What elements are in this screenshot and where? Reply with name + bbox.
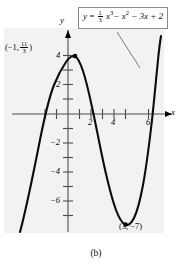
figure-caption: (b) [0, 248, 192, 258]
equation-lhs: y [83, 11, 87, 21]
y-axis-arrowhead [65, 30, 71, 38]
local-minimum-label: (3, −7) [119, 221, 142, 231]
max-fraction-denominator: 3 [20, 48, 28, 55]
y-tick-label-4: 4 [56, 50, 60, 60]
local-maximum-label: (−1,113) [5, 41, 32, 56]
equation-coefficient-fraction: 1 3 [98, 10, 103, 25]
y-tick-label-2: 2 [56, 79, 60, 89]
max-label-open: (−1, [5, 42, 19, 52]
max-label-fraction: 113 [20, 41, 28, 56]
y-tick-label--6: −6 [50, 195, 60, 205]
equation-equals: = [89, 11, 94, 21]
max-point-marker [73, 54, 78, 59]
figure-container: y = 1 3 x3− x2 − 3x + 2 y x 2 4 6 4 2 −2… [0, 0, 192, 272]
equation-leader-line [117, 32, 140, 68]
x-tick-label-6: 6 [146, 117, 150, 127]
cubic-curve [20, 36, 161, 232]
fraction-denominator: 3 [98, 17, 103, 24]
equation-label-box: y = 1 3 x3− x2 − 3x + 2 [78, 7, 168, 29]
y-tick-label--4: −4 [50, 166, 60, 176]
x-tick-label-4: 4 [111, 117, 115, 127]
y-tick-label--2: −2 [50, 137, 60, 147]
x-axis-label: x [171, 107, 175, 117]
x-tick-label-2: 2 [88, 117, 92, 127]
equation-term2: − x [113, 11, 125, 21]
max-label-close: ) [29, 42, 32, 52]
equation-term3: − 3x + 2 [131, 11, 163, 21]
y-axis-label: y [60, 15, 64, 25]
equation-term2-exponent: 2 [126, 9, 129, 16]
